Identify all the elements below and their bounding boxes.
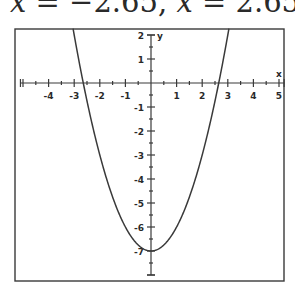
y-axis-label: y xyxy=(157,31,163,41)
y-tick-label: 1 xyxy=(138,55,144,65)
y-tick-label: -5 xyxy=(134,199,144,209)
y-tick-label: -2 xyxy=(134,127,144,137)
x-tick-label: 5 xyxy=(276,91,282,101)
x-tick-label: -4 xyxy=(44,91,54,101)
y-tick-label: -1 xyxy=(134,103,144,113)
x-tick-label: 4 xyxy=(250,91,256,101)
parabola-chart: -4-3-2-11234521-1-2-3-4-5-6-7xy xyxy=(0,0,295,286)
axis-ticks xyxy=(23,35,279,275)
x-tick-label: 2 xyxy=(199,91,205,101)
x-tick-label: -2 xyxy=(95,91,105,101)
x-axis-label: x xyxy=(276,69,282,79)
y-tick-label: 2 xyxy=(138,31,144,41)
x-tick-label: -1 xyxy=(120,91,130,101)
x-tick-label: 1 xyxy=(173,91,179,101)
y-tick-label: -6 xyxy=(134,223,144,233)
x-tick-label: -3 xyxy=(69,91,79,101)
y-tick-label: -3 xyxy=(134,151,144,161)
y-tick-label: -4 xyxy=(134,175,144,185)
x-tick-label: 3 xyxy=(225,91,231,101)
